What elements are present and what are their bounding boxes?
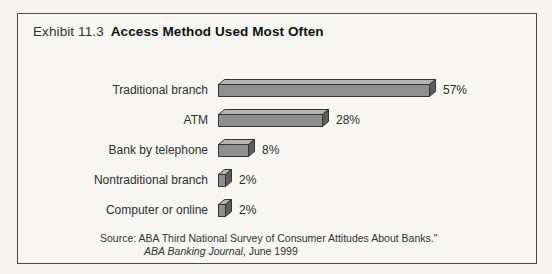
bar [218,169,233,188]
category-label: Nontraditional branch [18,169,208,191]
chart-row: Nontraditional branch2% [18,169,536,199]
category-label: Traditional branch [18,79,208,101]
exhibit-panel: Exhibit 11.3Access Method Used Most Ofte… [17,13,537,264]
chart-row: Traditional branch57% [18,79,536,109]
category-label: Bank by telephone [18,139,208,161]
chart-row: Bank by telephone8% [18,139,536,169]
bar [218,199,233,218]
source-note: Source: ABA Third National Survey of Con… [18,232,536,258]
value-label: 28% [336,109,360,131]
exhibit-title: Exhibit 11.3Access Method Used Most Ofte… [33,24,324,39]
source-line-2: ABA Banking Journal, June 1999 [18,245,536,258]
bar [218,79,437,98]
chart-title: Access Method Used Most Often [111,24,324,39]
exhibit-number: Exhibit 11.3 [33,24,104,39]
bar [218,139,256,158]
source-line-1: Source: ABA Third National Survey of Con… [18,232,536,245]
category-label: ATM [18,109,208,131]
value-label: 2% [239,169,256,191]
value-label: 2% [239,199,256,221]
category-label: Computer or online [18,199,208,221]
value-label: 57% [443,79,467,101]
value-label: 8% [262,139,279,161]
chart-row: ATM28% [18,109,536,139]
bar-chart: Traditional branch57%ATM28%Bank by telep… [18,79,536,229]
bar [218,109,330,128]
chart-row: Computer or online2% [18,199,536,229]
source-journal: ABA Banking Journal [144,245,243,257]
source-date: , June 1999 [243,245,298,257]
